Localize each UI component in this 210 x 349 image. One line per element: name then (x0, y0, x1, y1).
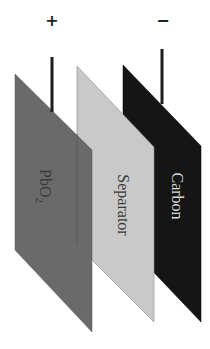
pbo2-label-subscript: 2 (34, 197, 46, 203)
battery-cell-diagram: + − PbO2 Separator Carbon (0, 0, 210, 349)
separator-label: Separator (114, 174, 132, 236)
pbo2-label-main: PbO (37, 169, 54, 197)
carbon-label: Carbon (169, 172, 186, 219)
negative-terminal-label: − (156, 11, 169, 30)
positive-terminal-label: + (45, 11, 58, 30)
negative-terminal-rod (161, 49, 164, 104)
positive-terminal-rod (51, 57, 54, 112)
